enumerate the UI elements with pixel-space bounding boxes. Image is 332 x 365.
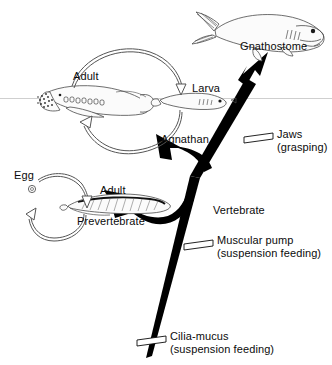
- gnathostome-illustration: [192, 12, 324, 61]
- cladogram-canvas: [0, 0, 332, 365]
- character-cilia-mucus-name: Cilia-mucus: [170, 330, 274, 343]
- label-character-muscular-pump: Muscular pump (suspension feeding): [217, 234, 321, 259]
- label-character-jaws: Jaws (grasping): [277, 128, 328, 153]
- character-muscular-pump-name: Muscular pump: [217, 234, 321, 247]
- character-jaws-qualifier: (grasping): [277, 141, 328, 154]
- lamprey-larva-illustration: [151, 93, 236, 109]
- label-prevertebrate-adult: Adult: [100, 184, 126, 197]
- label-lamprey-larva: Larva: [192, 82, 220, 95]
- arrowhead-gnathostome: [238, 52, 268, 86]
- cladogram-figure: Adult Larva Gnathostome Agnathan Egg Adu…: [0, 0, 332, 365]
- label-gnathostome: Gnathostome: [240, 40, 307, 53]
- label-clade-vertebrate: Vertebrate: [213, 204, 265, 217]
- label-character-cilia-mucus: Cilia-mucus (suspension feeding): [170, 330, 274, 355]
- label-lamprey-adult: Adult: [73, 70, 99, 83]
- label-prevertebrate-egg: Egg: [14, 169, 34, 182]
- character-jaws-name: Jaws: [277, 128, 328, 141]
- character-cilia-mucus-qualifier: (suspension feeding): [170, 343, 274, 356]
- character-tick-muscular-pump: [184, 240, 213, 250]
- label-agnathan: Agnathan: [161, 133, 209, 146]
- egg-icon: [28, 185, 35, 192]
- character-tick-jaws: [244, 133, 273, 143]
- label-prevertebrate: Prevertebrate: [77, 215, 145, 228]
- prevertebrate-illustration: [60, 194, 170, 215]
- character-muscular-pump-qualifier: (suspension feeding): [217, 247, 321, 260]
- lamprey-adult-illustration: [37, 86, 154, 118]
